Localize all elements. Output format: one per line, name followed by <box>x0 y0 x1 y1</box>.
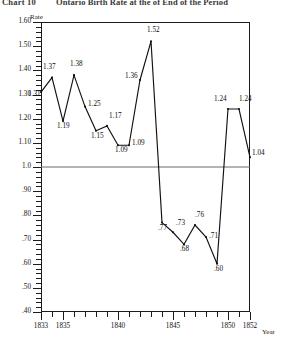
data-point-label: 1.17 <box>109 112 122 120</box>
data-point-label: 1.24 <box>214 95 227 103</box>
data-point <box>128 144 130 146</box>
data-point <box>172 231 174 233</box>
data-point-label: .71 <box>209 232 218 240</box>
data-point <box>227 108 229 110</box>
series-layer <box>0 0 283 349</box>
data-point-label: 1.24 <box>239 95 252 103</box>
data-point-label: 1.09 <box>115 146 128 154</box>
series-line <box>41 41 250 263</box>
data-point <box>84 106 86 108</box>
data-point-label: 1.37 <box>43 63 56 71</box>
data-point-label: .77 <box>158 224 167 232</box>
data-point <box>150 40 152 42</box>
data-point-label: 1.38 <box>70 60 83 68</box>
data-point-label: .60 <box>214 265 223 273</box>
data-point <box>51 77 53 79</box>
data-point-label: 1.31 <box>28 90 41 98</box>
data-point <box>238 108 240 110</box>
data-point-label: .73 <box>176 219 185 227</box>
data-point-label: 1.36 <box>125 72 138 80</box>
data-point <box>106 125 108 127</box>
data-point-label: 1.52 <box>147 26 160 34</box>
data-point-label: 1.04 <box>252 149 265 157</box>
data-point-label: .76 <box>195 211 204 219</box>
data-point-label: 1.19 <box>57 122 70 130</box>
data-point-label: .68 <box>180 245 189 253</box>
data-point-label: 1.25 <box>88 100 101 108</box>
data-point <box>194 224 196 226</box>
data-point <box>205 236 207 238</box>
data-point-label: 1.09 <box>132 139 145 147</box>
data-point-label: 1.15 <box>91 132 104 140</box>
data-point <box>249 156 251 158</box>
data-point <box>73 74 75 76</box>
birth-rate-chart: Chart 10 Ontario Birth Rate at the of En… <box>0 0 283 349</box>
data-point <box>139 79 141 81</box>
